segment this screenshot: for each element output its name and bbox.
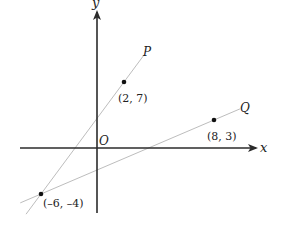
line-p: [26, 55, 144, 214]
point-2-7-label: (2, 7): [118, 92, 148, 105]
coordinate-plane: x y O P Q (2, 7) (8, 3) (–6, –4): [0, 0, 282, 229]
point-neg6-neg4-label: (–6, –4): [43, 197, 84, 210]
point-8-3: [212, 118, 217, 123]
point-neg6-neg4: [39, 192, 44, 197]
line-q-label: Q: [240, 101, 250, 115]
y-axis-label: y: [91, 0, 100, 10]
point-8-3-label: (8, 3): [207, 130, 237, 143]
point-2-7: [122, 80, 127, 85]
x-axis-label: x: [260, 140, 268, 155]
line-q: [20, 109, 240, 203]
origin-label: O: [99, 134, 109, 148]
line-p-label: P: [142, 45, 152, 59]
